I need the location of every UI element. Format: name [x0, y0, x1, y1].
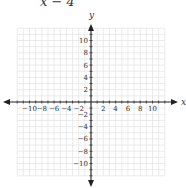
y-tick-label: −10 — [73, 160, 88, 168]
x-tick-label: 6 — [126, 105, 131, 113]
x-tick-label: 8 — [138, 105, 142, 113]
y-axis-arrow-up-icon — [88, 24, 94, 31]
y-tick-label: 2 — [84, 86, 88, 94]
x-axis-arrow-right-icon — [171, 99, 178, 105]
x-tick-label: 4 — [113, 105, 118, 113]
x-tick-label: −10 — [22, 105, 37, 113]
x-tick-label: 10 — [148, 105, 157, 113]
coordinate-plane: −10−8−6−4−2246810108642−2−4−6−8−10xy — [0, 0, 186, 188]
x-tick-label: −6 — [49, 105, 60, 113]
x-tick-label: 2 — [101, 105, 105, 113]
y-tick-label: 6 — [84, 62, 89, 70]
y-tick-label: 4 — [84, 74, 89, 82]
x-tick-label: −4 — [61, 105, 72, 113]
y-tick-label: 10 — [79, 37, 88, 45]
y-tick-label: 8 — [84, 49, 88, 57]
y-axis-label: y — [88, 10, 95, 20]
y-tick-label: −8 — [78, 148, 88, 156]
y-axis-arrow-down-icon — [88, 180, 94, 187]
y-tick-label: −6 — [78, 135, 89, 143]
x-tick-label: −8 — [37, 105, 47, 113]
x-axis-arrow-left-icon — [3, 99, 10, 105]
x-axis-label: x — [181, 97, 186, 107]
y-tick-label: −4 — [78, 123, 89, 131]
y-tick-label: −2 — [78, 111, 88, 119]
